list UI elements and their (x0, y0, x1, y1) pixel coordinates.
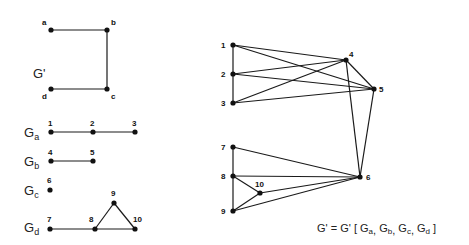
composition-formula: G' = G' [ Ga, Gb, Gc, Gd ] (317, 222, 436, 236)
gprime-node-a (48, 27, 53, 32)
ga-node-label-3: 3 (132, 119, 137, 128)
ga-node-3 (132, 129, 137, 134)
composed-node-label-10: 10 (255, 180, 264, 189)
composed-node-label-5: 5 (379, 85, 384, 94)
composed-graph: 12345678910 (221, 41, 384, 216)
composed-node-label-1: 1 (221, 41, 226, 50)
ga-node-2 (90, 129, 95, 134)
gc-node-6 (47, 187, 52, 192)
composed-node-8 (230, 173, 235, 178)
gprime-label: G' (33, 66, 46, 81)
composed-edge-1-4 (233, 45, 346, 60)
composed-edge-3-5 (233, 89, 374, 103)
subgraph-label-gc: Gc (24, 183, 39, 200)
gd-node-label-7: 7 (47, 215, 52, 224)
composed-node-6 (357, 174, 362, 179)
gprime-node-b (104, 27, 109, 32)
gb-node-5 (90, 158, 95, 163)
composed-node-label-7: 7 (221, 143, 226, 152)
gb-node-label-5: 5 (90, 148, 95, 157)
gd-edge-8-9 (95, 203, 114, 229)
subgraph-gb: 45Gb (24, 148, 96, 171)
composed-node-label-9: 9 (221, 207, 226, 216)
ga-node-1 (48, 129, 53, 134)
gd-node-label-10: 10 (133, 215, 142, 224)
gc-node-label-6: 6 (47, 176, 52, 185)
composed-edge-7-6 (233, 147, 360, 177)
composed-node-label-4: 4 (349, 50, 354, 59)
gd-node-10 (132, 226, 137, 231)
composed-edge-9-10 (233, 193, 260, 211)
subgraph-label-ga: Ga (24, 125, 39, 142)
subgraph-label-gb: Gb (24, 154, 39, 171)
composed-node-2 (230, 71, 235, 76)
gprime-node-d (48, 86, 53, 91)
composed-edge-9-6 (233, 177, 360, 211)
composed-node-label-2: 2 (221, 70, 226, 79)
composed-node-1 (230, 42, 235, 47)
composed-node-3 (230, 100, 235, 105)
composed-node-label-6: 6 (366, 173, 371, 182)
composed-node-7 (230, 144, 235, 149)
gd-node-label-9: 9 (111, 189, 116, 198)
composed-node-label-8: 8 (221, 172, 226, 181)
gd-edge-9-10 (114, 203, 135, 229)
ga-node-label-1: 1 (48, 119, 53, 128)
gb-node-4 (48, 158, 53, 163)
composed-edge-5-6 (360, 89, 374, 177)
g-prime-graph: abcdG' (33, 18, 116, 101)
gprime-node-label-d: d (42, 92, 47, 101)
gd-node-8 (92, 226, 97, 231)
composed-edge-4-6 (346, 60, 360, 177)
subgraph-gc: 6Gc (24, 176, 53, 200)
composed-node-9 (230, 208, 235, 213)
subgraph-ga: 123Ga (24, 119, 138, 142)
composed-edge-8-6 (233, 176, 360, 177)
gprime-node-label-a: a (42, 18, 47, 27)
composed-node-5 (371, 86, 376, 91)
gprime-node-label-c: c (111, 92, 116, 101)
gd-node-9 (111, 200, 116, 205)
subgraph-gd: 78910Gd (24, 189, 142, 237)
subgraph-label-gd: Gd (24, 220, 39, 237)
formula-text: G' = G' [ Ga, Gb, Gc, Gd ] (317, 222, 436, 236)
composed-node-10 (257, 190, 262, 195)
composed-node-label-3: 3 (221, 99, 226, 108)
gd-node-label-8: 8 (89, 215, 94, 224)
gd-node-7 (47, 226, 52, 231)
gprime-node-label-b: b (111, 18, 116, 27)
graph-composition-diagram: abcdG' 123Ga45Gb6Gc78910Gd 12345678910 G… (0, 0, 469, 245)
gb-node-label-4: 4 (48, 148, 53, 157)
gprime-node-c (104, 86, 109, 91)
diagram-svg: abcdG' 123Ga45Gb6Gc78910Gd 12345678910 G… (0, 0, 469, 245)
composed-node-4 (343, 57, 348, 62)
subgraph-list: 123Ga45Gb6Gc78910Gd (24, 119, 142, 237)
ga-node-label-2: 2 (90, 119, 95, 128)
